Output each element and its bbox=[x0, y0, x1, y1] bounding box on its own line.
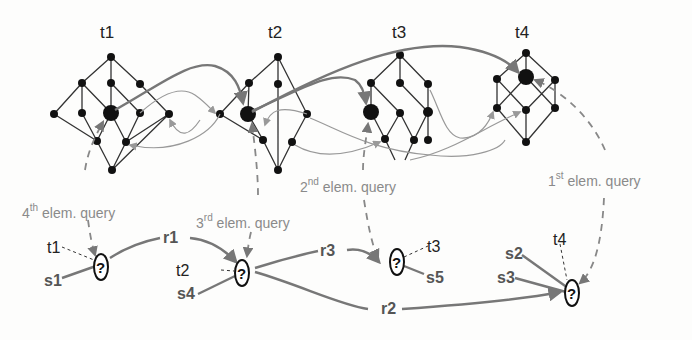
qnode-type-t1: t1 bbox=[47, 239, 60, 256]
highlighted-node-t2 bbox=[240, 106, 256, 122]
lattice-t4 bbox=[493, 49, 559, 146]
lattice-t2 bbox=[216, 53, 311, 174]
qnode-subject-s2: s2 bbox=[505, 245, 523, 262]
query-node-3: ? bbox=[390, 249, 404, 275]
relation-label-r3: r3 bbox=[320, 242, 335, 259]
highlighted-node-t4 bbox=[518, 69, 534, 85]
qnode-type-t2: t2 bbox=[176, 262, 189, 279]
lattice-title-t4: t4 bbox=[515, 23, 529, 42]
query-graph-edges bbox=[62, 238, 568, 309]
lattice-title-t3: t3 bbox=[392, 23, 406, 42]
highlighted-node-t3 bbox=[363, 104, 379, 120]
qnode-subject-s3: s3 bbox=[497, 269, 515, 286]
qnode-subject-s5: s5 bbox=[426, 269, 444, 286]
lattice-mappings bbox=[115, 46, 520, 160]
qnode-type-t3: t3 bbox=[427, 238, 440, 255]
svg-text:?: ? bbox=[96, 259, 105, 276]
svg-text:?: ? bbox=[392, 254, 401, 271]
qnode-subject-s1: s1 bbox=[44, 272, 62, 289]
lattice-title-t1: t1 bbox=[100, 23, 114, 42]
lattice-title-t2: t2 bbox=[268, 23, 282, 42]
query-node-1: ? bbox=[94, 254, 108, 280]
query-node-4: ? bbox=[565, 280, 579, 306]
relation-label-r2: r2 bbox=[381, 300, 396, 317]
query-label-1st: 1st elem. query bbox=[548, 170, 641, 189]
svg-text:?: ? bbox=[237, 265, 246, 282]
query-label-4th: 4th elem. query bbox=[22, 202, 115, 221]
highlighted-node-t1 bbox=[103, 105, 119, 121]
query-label-3rd: 3rd elem. query bbox=[196, 212, 290, 231]
query-node-2: ? bbox=[235, 260, 249, 286]
query-label-2nd: 2nd elem. query bbox=[300, 176, 396, 195]
qnode-type-t4: t4 bbox=[553, 231, 566, 248]
svg-text:?: ? bbox=[567, 285, 576, 302]
lattice-t1 bbox=[50, 53, 173, 174]
qnode-subject-s4: s4 bbox=[177, 285, 195, 302]
relation-label-r1: r1 bbox=[163, 229, 178, 246]
lattice-query-diagram: t1 t2 t3 t4 bbox=[0, 0, 692, 340]
